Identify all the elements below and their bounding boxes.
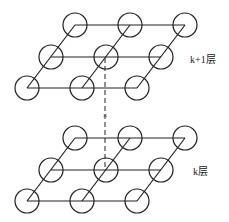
lower-layer-label: k层 — [193, 163, 208, 178]
lower-layer — [15, 126, 197, 213]
upper-layer — [15, 13, 197, 100]
upper-layer-label: k+1层 — [190, 51, 216, 66]
lattice-diagram: × — [0, 0, 229, 222]
connector-marker: × — [103, 111, 108, 120]
